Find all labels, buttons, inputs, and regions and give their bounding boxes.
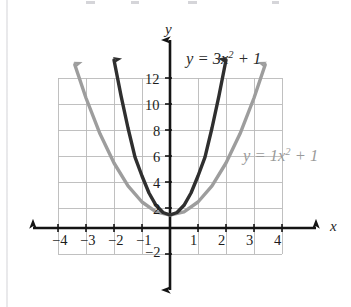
equation-label-dark-curve: y = 3x2 + 1: [186, 51, 261, 68]
x-tick-label: −4: [52, 233, 67, 248]
y-tick-label: 4: [153, 176, 160, 191]
eq-lhs: y: [186, 49, 193, 68]
x-tick-label: 4: [274, 233, 281, 248]
y-tick-label: 6: [153, 150, 160, 165]
y-tick-label: 2: [153, 202, 160, 217]
top-cropped-text-row: [86, 1, 279, 4]
eq-plus: +: [295, 146, 306, 165]
equation-label-light-curve: y = 1x2 + 1: [243, 148, 318, 165]
x-axis-name-label: x: [330, 219, 337, 234]
eq-constant: 1: [310, 146, 318, 165]
y-tick-label: 8: [153, 124, 160, 139]
x-tick-label: −2: [108, 233, 123, 248]
x-tick-label: 1: [190, 233, 197, 248]
graph-figure: y = 3x2 + 1 y = 1x2 + 1 y x −4−3−2−11234…: [0, 0, 351, 307]
eq-plus: +: [238, 49, 249, 68]
x-tick-label: −3: [80, 233, 95, 248]
x-tick-label: 2: [218, 233, 225, 248]
eq-equals: =: [197, 49, 208, 68]
eq-coefficient: 3: [213, 49, 221, 68]
y-axis-name-label: y: [165, 22, 172, 37]
y-tick-label: 10: [145, 98, 160, 113]
eq-constant: 1: [253, 49, 261, 68]
y-tick-label: 12: [145, 72, 160, 87]
axis-lines: [33, 40, 316, 290]
eq-exponent: 2: [228, 49, 233, 60]
eq-exponent: 2: [285, 146, 290, 157]
eq-coefficient: 1: [270, 146, 278, 165]
y-tick-label: −2: [145, 245, 160, 260]
x-tick-label: 3: [246, 233, 253, 248]
eq-equals: =: [254, 146, 265, 165]
eq-lhs: y: [243, 146, 250, 165]
